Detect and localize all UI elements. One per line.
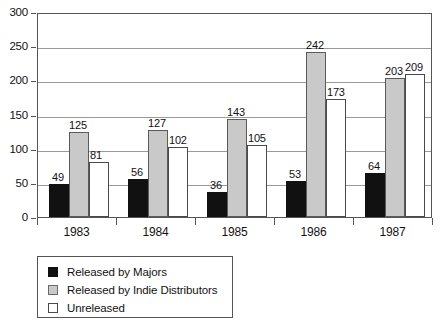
bar-unreleased-1984 (168, 147, 188, 217)
x-axis-tick-mark (37, 218, 38, 225)
bar-value-label: 53 (277, 169, 313, 180)
bar-unreleased-1987 (405, 74, 425, 217)
y-axis-tick-mark (31, 81, 36, 82)
bar-majors-1986 (286, 181, 306, 217)
bar-value-label: 209 (396, 62, 432, 73)
y-axis-tick-mark (31, 218, 36, 219)
bar-majors-1984 (128, 179, 148, 217)
y-axis-tick-label: 300 (0, 7, 28, 19)
y-axis-tick-label: 200 (0, 75, 28, 87)
x-axis-tick-label: 1987 (353, 226, 432, 239)
x-axis-tick-mark (195, 218, 196, 225)
bar-value-label: 127 (139, 118, 175, 129)
bar-value-label: 81 (90, 150, 102, 161)
x-axis-tick-mark (353, 218, 354, 225)
x-axis-tick-mark (116, 218, 117, 225)
bar-indie-1987 (385, 78, 405, 217)
bar-unreleased-1985 (247, 145, 267, 217)
x-axis-tick-label: 1983 (37, 226, 116, 239)
bar-value-label: 56 (119, 167, 155, 178)
legend-swatch-unreleased-icon (48, 303, 58, 313)
y-axis-tick-label: 100 (0, 144, 28, 156)
x-axis-tick-label: 1985 (195, 226, 274, 239)
y-axis-tick-label: 150 (0, 110, 28, 122)
gridline (38, 82, 431, 83)
legend-item: Released by Indie Distributors (48, 281, 232, 298)
legend: Released by Majors Released by Indie Dis… (37, 256, 233, 318)
bar-unreleased-1986 (326, 99, 346, 217)
bar-indie-1986 (306, 52, 326, 217)
bar-value-label: 36 (198, 180, 234, 191)
legend-label-indie: Released by Indie Distributors (67, 284, 217, 296)
bar-value-label: 173 (327, 87, 345, 98)
bar-value-label: 143 (218, 107, 254, 118)
y-axis-tick-label: 250 (0, 41, 28, 53)
bar-majors-1985 (207, 192, 227, 217)
legend-item: Unreleased (48, 299, 232, 316)
y-axis-tick-mark (31, 184, 36, 185)
legend-item: Released by Majors (48, 263, 232, 280)
bar-chart: 050100150200250300 491258156127102361431… (0, 0, 442, 327)
bar-value-label: 105 (248, 133, 266, 144)
x-axis-tick-mark (432, 218, 433, 225)
x-axis-tick-mark (274, 218, 275, 225)
gridline (38, 48, 431, 49)
bar-indie-1985 (227, 119, 247, 217)
legend-label-unreleased: Unreleased (67, 302, 125, 314)
bar-value-label: 49 (40, 172, 76, 183)
bar-value-label: 125 (60, 120, 96, 131)
bar-value-label: 64 (356, 161, 392, 172)
y-axis-tick-mark (31, 150, 36, 151)
bar-unreleased-1983 (89, 162, 109, 217)
y-axis-tick-mark (31, 116, 36, 117)
y-axis-tick-mark (31, 47, 36, 48)
bar-majors-1987 (365, 173, 385, 217)
x-axis-tick-label: 1986 (274, 226, 353, 239)
y-axis-tick-label: 0 (0, 212, 28, 224)
bar-value-label: 102 (169, 135, 187, 146)
legend-swatch-majors-icon (48, 267, 58, 277)
x-axis-tick-label: 1984 (116, 226, 195, 239)
bar-value-label: 242 (297, 40, 333, 51)
y-axis-tick-label: 50 (0, 178, 28, 190)
legend-swatch-indie-icon (48, 285, 58, 295)
y-axis-tick-mark (31, 13, 36, 14)
bar-majors-1983 (49, 184, 69, 217)
legend-label-majors: Released by Majors (67, 266, 167, 278)
